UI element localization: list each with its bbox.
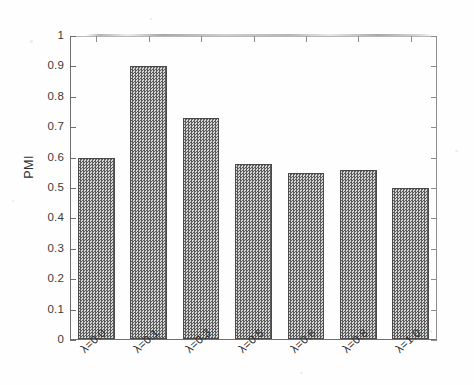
bars-layer: [71, 37, 436, 339]
scan-speckle: [30, 40, 33, 43]
y-tick-label: 0.4: [24, 211, 64, 223]
y-tick-label: 0.8: [24, 90, 64, 102]
scan-speckle: [455, 150, 458, 152]
bar: [130, 66, 167, 339]
bar: [235, 164, 272, 339]
y-tick-label: 0.1: [24, 303, 64, 315]
y-tick-label: 0.9: [24, 59, 64, 71]
y-axis-title: PMI: [22, 155, 36, 179]
y-tick-label: 0.3: [24, 242, 64, 254]
y-tick-label: 0.7: [24, 120, 64, 132]
bar-chart-figure: 00.10.20.30.40.50.60.70.80.91 λ=0.0λ=0.1…: [0, 0, 474, 385]
scan-speckle: [430, 330, 432, 333]
scan-speckle: [12, 200, 14, 202]
y-tick-label: 0: [24, 333, 64, 345]
bar: [183, 118, 220, 339]
y-tick-label: 0.2: [24, 272, 64, 284]
y-tick-mark-right: [431, 340, 437, 341]
y-tick-label: 0.5: [24, 181, 64, 193]
bar: [340, 170, 377, 339]
bar: [392, 188, 429, 339]
scan-speckle: [150, 18, 152, 20]
bar: [78, 158, 115, 339]
bar: [288, 173, 325, 339]
scan-speckle: [300, 372, 303, 374]
y-tick-mark: [70, 340, 76, 341]
